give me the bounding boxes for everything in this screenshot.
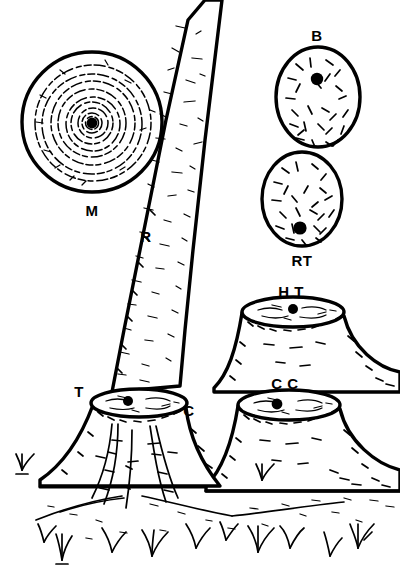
label-rt: RT (292, 252, 313, 269)
rt-pith-dot (293, 221, 306, 234)
label-r: R (140, 228, 151, 245)
label-b: B (311, 27, 322, 44)
left-stump-cut-top (91, 389, 187, 417)
label-cc: C C (271, 375, 298, 392)
cc-pith-dot (272, 399, 283, 410)
label-ht: H T (278, 283, 304, 300)
label-c: C (183, 402, 194, 419)
figure-root: M (0, 0, 400, 572)
ht-pith-dot (288, 304, 298, 314)
m-pith-dot (87, 118, 98, 129)
tree-stump-diagram: M (0, 0, 400, 572)
b-oval-outline (276, 47, 360, 147)
label-t: T (74, 383, 84, 400)
label-m: M (86, 202, 99, 219)
left-stump-pith-dot (123, 396, 133, 406)
b-pith-dot (311, 73, 323, 85)
